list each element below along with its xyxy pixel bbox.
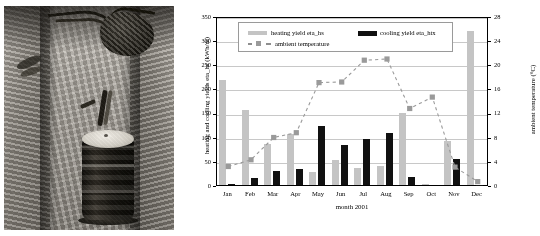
temperature-marker: [226, 164, 231, 169]
y-axis-tick-label: 200: [190, 86, 211, 92]
legend-item-cooling: cooling yield eta_htx: [358, 29, 436, 36]
temperature-marker: [407, 106, 412, 111]
temperature-marker: [294, 130, 299, 135]
black-bar-swatch-icon: [358, 31, 377, 36]
y-axis-tick-label: 0: [190, 183, 211, 189]
y2-axis-tick-mark: [488, 138, 491, 139]
temperature-marker: [430, 95, 435, 100]
y2-axis-tick-label: 20: [494, 62, 500, 68]
x-axis-title: month 2001: [216, 203, 488, 210]
y2-axis-tick-label: 28: [494, 14, 500, 20]
grey-bar-swatch-icon: [248, 31, 267, 35]
legend-label-cooling: cooling yield eta_htx: [380, 29, 436, 36]
y-axis-tick-label: 50: [190, 159, 211, 165]
temperature-dashed-path: [228, 59, 477, 182]
photo-panel: [0, 0, 178, 236]
y2-axis-tick-mark: [488, 114, 491, 115]
temperature-marker: [316, 80, 321, 85]
borehole-photograph: [4, 6, 174, 230]
temperature-marker: [475, 179, 480, 184]
y-axis-tick-mark: [213, 186, 216, 187]
y2-axis-tick-mark: [488, 89, 491, 90]
y2-axis-tick-label: 16: [494, 86, 500, 92]
temperature-marker: [384, 56, 389, 61]
y-axis-tick-mark: [213, 114, 216, 115]
y2-axis-tick-mark: [488, 186, 491, 187]
photo-grayscale-overlay: [4, 6, 174, 230]
temperature-marker: [339, 79, 344, 84]
y2-axis-tick-mark: [488, 162, 491, 163]
y-axis-tick-mark: [213, 17, 216, 18]
y2-axis-tick-label: 24: [494, 38, 500, 44]
y2-axis-tick-label: 12: [494, 110, 500, 116]
y-axis-title-wrap: heating and cooling yields eta_hs (kWh/m…: [186, 0, 200, 236]
legend-item-heating: heating yield eta_hs: [248, 29, 324, 36]
y-axis-tick-label: 150: [190, 110, 211, 116]
y-axis-tick-mark: [213, 41, 216, 42]
y2-axis-tick-mark: [488, 17, 491, 18]
y-axis-tick-label: 250: [190, 62, 211, 68]
y2-axis-tick-mark: [488, 41, 491, 42]
legend-item-temperature: ambient temperature: [248, 40, 329, 47]
temperature-marker: [362, 58, 367, 63]
y2-axis-title: ambient temperature (°C): [529, 24, 536, 176]
y2-axis-tick-label: 4: [494, 159, 497, 165]
y2-axis-tick-label: 0: [494, 183, 497, 189]
y-axis-tick-mark: [213, 89, 216, 90]
temperature-marker: [271, 135, 276, 140]
y-axis-tick-mark: [213, 138, 216, 139]
y2-axis-tick-mark: [488, 65, 491, 66]
temperature-marker: [452, 165, 457, 170]
legend-label-temperature: ambient temperature: [275, 40, 329, 47]
temperature-marker: [248, 157, 253, 162]
figure-root: heating and cooling yields eta_hs (kWh/m…: [0, 0, 540, 236]
y2-axis-title-wrap: ambient temperature (°C): [520, 0, 534, 236]
y-axis-tick-mark: [213, 162, 216, 163]
legend-label-heating: heating yield eta_hs: [271, 29, 324, 36]
y-axis-tick-label: 350: [190, 14, 211, 20]
y-axis-tick-mark: [213, 65, 216, 66]
y-axis-tick-label: 300: [190, 38, 211, 44]
x-axis-tick-label: Dec: [462, 190, 492, 197]
chart-legend: heating yield eta_hs cooling yield eta_h…: [238, 22, 453, 52]
y2-axis-tick-label: 8: [494, 135, 497, 141]
y-axis-tick-label: 100: [190, 135, 211, 141]
dashed-line-square-marker-icon: [248, 41, 272, 47]
